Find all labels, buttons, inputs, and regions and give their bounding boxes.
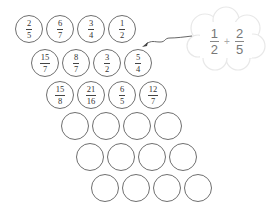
- denominator: 4: [136, 64, 140, 74]
- fraction-circle: 25: [15, 15, 43, 43]
- numerator: 5: [135, 53, 141, 64]
- fraction-circle: 65: [108, 81, 136, 109]
- cloud-fraction-left: 1 2: [210, 27, 219, 56]
- numerator: 21: [86, 85, 97, 96]
- numerator: 1: [210, 27, 219, 42]
- empty-circle: [92, 112, 120, 140]
- numerator: 12: [148, 85, 159, 96]
- fraction-circle: 87: [62, 49, 90, 77]
- fraction-circle: 2116: [77, 81, 105, 109]
- cloud-expression: 1 2 + 2 5: [196, 22, 258, 60]
- numerator: 3: [88, 19, 94, 30]
- empty-circle: [76, 143, 104, 171]
- numerator: 6: [57, 19, 63, 30]
- cloud-fraction-right: 2 5: [235, 27, 244, 56]
- empty-circle: [153, 174, 181, 202]
- fraction-circle: 158: [46, 81, 74, 109]
- denominator: 5: [120, 96, 124, 106]
- plus-operator: +: [224, 36, 230, 47]
- fraction-circle: 157: [31, 49, 59, 77]
- fraction-circle: 12: [108, 15, 136, 43]
- empty-circle: [169, 143, 197, 171]
- empty-circle: [138, 143, 166, 171]
- numerator: 6: [119, 85, 125, 96]
- numerator: 2: [235, 27, 244, 42]
- empty-circle: [107, 143, 135, 171]
- numerator: 1: [119, 19, 125, 30]
- empty-circle: [123, 112, 151, 140]
- empty-circle: [184, 174, 212, 202]
- fraction-circle: 127: [139, 81, 167, 109]
- pointer-arrow: [146, 36, 192, 44]
- empty-circle: [122, 174, 150, 202]
- fraction-diagram: 1 2 + 2 5 25 67 34 12 157 87 32 54 158 2…: [0, 0, 266, 215]
- denominator: 7: [43, 64, 47, 74]
- denominator: 2: [105, 64, 109, 74]
- denominator: 7: [151, 96, 155, 106]
- numerator: 15: [40, 53, 51, 64]
- denominator: 4: [89, 30, 93, 40]
- denominator: 8: [58, 96, 62, 106]
- denominator: 7: [74, 64, 78, 74]
- fraction-circle: 54: [124, 49, 152, 77]
- denominator: 5: [27, 30, 31, 40]
- denominator: 2: [120, 30, 124, 40]
- denominator: 2: [211, 42, 218, 56]
- denominator: 5: [236, 42, 243, 56]
- fraction-circle: 67: [46, 15, 74, 43]
- fraction-circle: 32: [93, 49, 121, 77]
- numerator: 8: [73, 53, 79, 64]
- empty-circle: [61, 112, 89, 140]
- denominator: 16: [87, 96, 96, 106]
- empty-circle: [91, 174, 119, 202]
- denominator: 7: [58, 30, 62, 40]
- numerator: 2: [26, 19, 32, 30]
- fraction-circle: 34: [77, 15, 105, 43]
- arrowhead-icon: [142, 42, 148, 47]
- numerator: 15: [55, 85, 66, 96]
- numerator: 3: [104, 53, 110, 64]
- empty-circle: [154, 112, 182, 140]
